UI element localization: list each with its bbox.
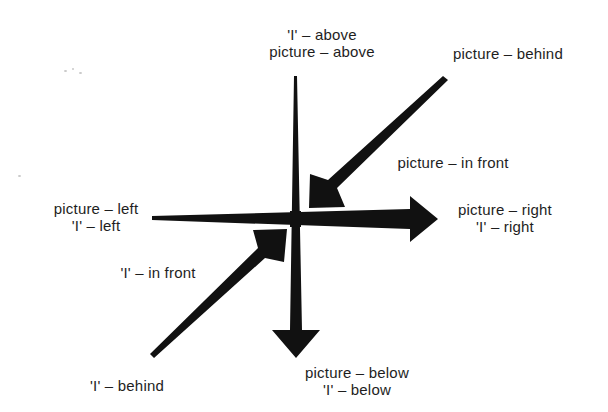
diagram-canvas: 'I' – above picture – above picture – be… — [0, 0, 608, 412]
label-top-line1: 'I' – above — [262, 26, 382, 43]
behind-to-front-diagonal-arrow — [309, 76, 448, 208]
label-lower-left-diagonal-line1: 'I' – in front — [108, 264, 208, 281]
label-bottom-left: 'I' – behind — [72, 377, 182, 394]
label-top: 'I' – above picture – above — [262, 26, 382, 60]
label-right-line1: picture – right — [440, 201, 570, 218]
axes-crossing — [290, 211, 301, 227]
label-right: picture – right 'I' – right — [440, 201, 570, 235]
front-to-center-diagonal-arrow — [150, 229, 287, 358]
label-top-right-line1: picture – behind — [438, 45, 578, 62]
label-left-line2: 'I' – left — [36, 217, 156, 234]
label-bottom-line1: picture – below — [287, 364, 427, 381]
label-lower-left-diagonal: 'I' – in front — [108, 264, 208, 281]
label-left: picture – left 'I' – left — [36, 200, 156, 234]
label-bottom: picture – below 'I' – below — [287, 364, 427, 398]
label-top-right: picture – behind — [438, 45, 578, 62]
label-left-line1: picture – left — [36, 200, 156, 217]
label-bottom-left-line1: 'I' – behind — [72, 377, 182, 394]
label-middle-right-diagonal-line1: picture – in front — [378, 154, 528, 171]
label-top-line2: picture – above — [262, 43, 382, 60]
label-right-line2: 'I' – right — [440, 218, 570, 235]
label-middle-right-diagonal: picture – in front — [378, 154, 528, 171]
label-bottom-line2: 'I' – below — [287, 381, 427, 398]
